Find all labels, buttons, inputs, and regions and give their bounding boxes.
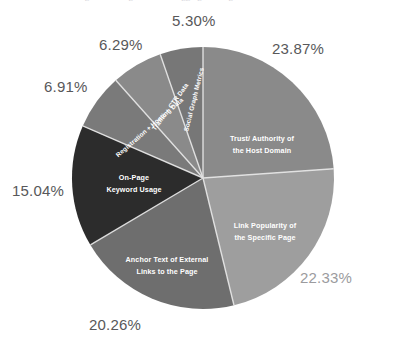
slice-label-trust-authority-2: the Host Domain (233, 146, 292, 155)
slice-label-anchor-text: Anchor Text of External (126, 255, 209, 264)
slice-label-link-popularity-2: the Specific Page (234, 233, 295, 242)
pie-slice-trust-authority[interactable] (203, 47, 334, 178)
pct-label-link-popularity: 22.33% (300, 269, 352, 286)
chart-canvas: Search Engine Ranking Factors — Aggregat… (0, 0, 403, 350)
pct-label-social-graph-metrics: 5.30% (172, 12, 216, 29)
pct-label-registration-hosting-data: 6.91% (44, 78, 88, 95)
pct-label-anchor-text: 20.26% (89, 316, 141, 333)
pct-label-traffic-ctr-data: 6.29% (99, 36, 143, 53)
chart-title-cutoff: Search Engine Ranking Factors — Aggregat… (48, 0, 358, 3)
pct-label-trust-authority: 23.87% (272, 40, 324, 57)
slice-label-anchor-text-2: Links to the Page (136, 267, 197, 276)
pct-label-on-page-keyword-usage: 15.04% (12, 182, 64, 199)
pie-svg: Trust/ Authority of the Host Domain Link… (72, 28, 334, 328)
slice-label-on-page-keyword-usage-2: Keyword Usage (106, 185, 161, 194)
slice-label-link-popularity: Link Popularity of (234, 221, 297, 230)
slice-label-on-page-keyword-usage: On-Page (119, 173, 149, 182)
slice-label-trust-authority: Trust/ Authority of (230, 134, 294, 143)
pie-chart: Trust/ Authority of the Host Domain Link… (72, 28, 334, 328)
